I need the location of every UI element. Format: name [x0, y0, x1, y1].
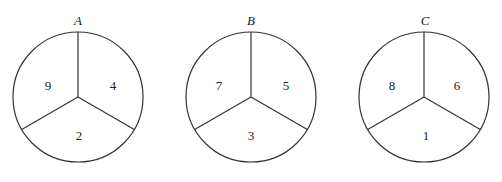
spinner-label: C: [421, 13, 430, 28]
sector-upper-right: 5: [283, 78, 290, 93]
spinner-b: B 7 5 3: [186, 13, 316, 162]
sector-upper-left: 8: [389, 78, 396, 93]
divider-line: [251, 97, 307, 130]
divider-line: [22, 97, 78, 130]
spinners-diagram: A 9 4 2 B 7 5 3 C 8 6 1: [0, 0, 502, 182]
sector-upper-left: 9: [45, 78, 52, 93]
spinner-label: B: [247, 13, 255, 28]
sector-bottom: 2: [76, 128, 83, 143]
spinner-a: A 9 4 2: [13, 13, 143, 162]
divider-line: [368, 97, 424, 130]
spinner-c: C 8 6 1: [359, 13, 489, 162]
sector-bottom: 1: [423, 128, 430, 143]
sector-upper-right: 6: [454, 78, 461, 93]
sector-bottom: 3: [248, 128, 255, 143]
divider-line: [424, 97, 480, 130]
spinner-label: A: [73, 13, 82, 28]
sector-upper-left: 7: [216, 78, 223, 93]
divider-line: [195, 97, 251, 130]
divider-line: [78, 97, 134, 130]
sector-upper-right: 4: [110, 78, 117, 93]
